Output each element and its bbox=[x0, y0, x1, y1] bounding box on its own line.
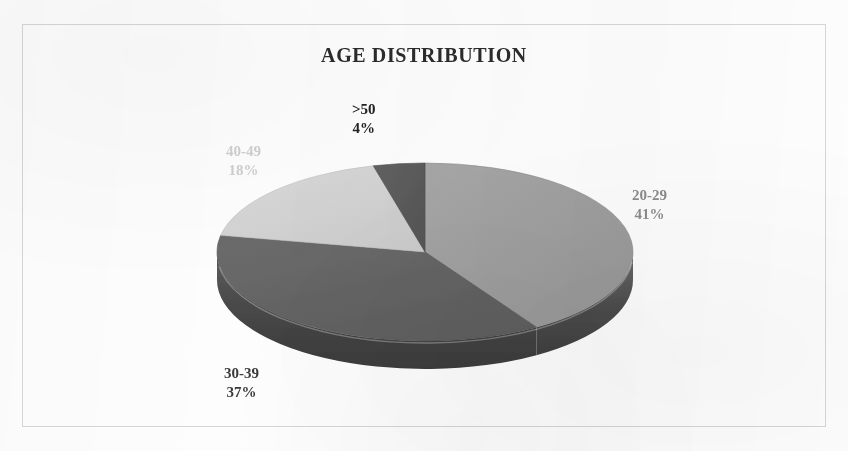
pie-chart-graphic bbox=[0, 0, 848, 451]
slice-label-30-39: 30-39 37% bbox=[224, 364, 259, 402]
slice-label-20-29-name: 20-29 bbox=[632, 186, 667, 205]
pie-top-face bbox=[217, 163, 633, 341]
slice-label-40-49-name: 40-49 bbox=[226, 142, 261, 161]
slice-label-over-50-value: 4% bbox=[352, 119, 376, 138]
slice-label-20-29-value: 41% bbox=[632, 205, 667, 224]
slice-label-over-50-name: >50 bbox=[352, 100, 376, 119]
pie-chart-figure: AGE DISTRIBUTION bbox=[0, 0, 848, 451]
slice-label-40-49: 40-49 18% bbox=[226, 142, 261, 180]
slice-label-40-49-value: 18% bbox=[226, 161, 261, 180]
slice-label-30-39-name: 30-39 bbox=[224, 364, 259, 383]
slice-label-over-50: >50 4% bbox=[352, 100, 376, 138]
slice-label-20-29: 20-29 41% bbox=[632, 186, 667, 224]
slice-label-30-39-value: 37% bbox=[224, 383, 259, 402]
